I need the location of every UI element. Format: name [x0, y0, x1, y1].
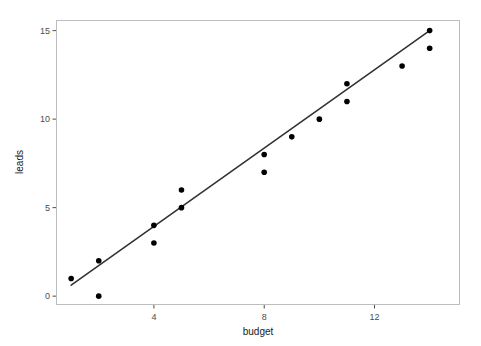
scatter-plot-figure: 051015 4812 budget leads [0, 0, 481, 346]
x-tick-label: 4 [151, 312, 156, 322]
y-tick-label: 5 [45, 203, 50, 213]
y-axis-title: leads [14, 150, 25, 174]
plot-panel [56, 20, 460, 305]
x-tick-label: 12 [369, 312, 379, 322]
x-axis-title: budget [56, 326, 460, 337]
y-tick-label: 10 [40, 114, 50, 124]
y-tick-label: 15 [40, 26, 50, 36]
x-tick-label: 8 [262, 312, 267, 322]
y-tick-label: 0 [45, 291, 50, 301]
